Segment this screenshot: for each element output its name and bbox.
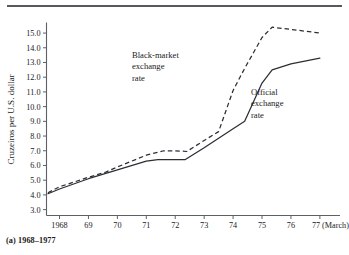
y-tick-label: 9.0	[30, 117, 40, 126]
y-axis-tick-labels: 3.04.05.06.07.08.09.010.011.012.013.014.…	[26, 29, 40, 215]
x-tick-label: 71	[142, 221, 150, 230]
y-axis-title: Cruzeiros per U.S. dollar	[6, 74, 16, 164]
y-tick-label: 8.0	[30, 132, 40, 141]
y-tick-label: 12.0	[26, 73, 40, 82]
chart-series	[48, 27, 320, 194]
y-tick-label: 15.0	[26, 29, 40, 38]
y-tick-label: 13.0	[26, 58, 40, 67]
official-label: Officialexchangerate	[251, 87, 284, 120]
black-market-label: Black-marketexchangerate	[132, 50, 179, 83]
x-tick-label: 73	[200, 221, 208, 230]
x-tick-label: 1968	[51, 221, 67, 230]
x-tick-label: 69	[84, 221, 92, 230]
y-tick-label: 10.0	[26, 103, 40, 112]
series-official	[48, 58, 320, 194]
y-tick-label: 3.0	[30, 206, 40, 215]
figure-container: 3.04.05.06.07.08.09.010.011.012.013.014.…	[0, 0, 349, 255]
x-tick-label: 72	[171, 221, 179, 230]
y-tick-label: 4.0	[30, 191, 40, 200]
x-tick-label: 75	[258, 221, 266, 230]
y-tick-label: 5.0	[30, 176, 40, 185]
x-tick-label: 77 (March)	[312, 221, 349, 230]
y-tick-label: 7.0	[30, 147, 40, 156]
y-tick-label: 11.0	[26, 88, 40, 97]
series-black-market	[48, 27, 320, 193]
chart-axes	[47, 23, 341, 216]
x-axis-tick-labels: 1968697071727374757677 (March)	[51, 221, 349, 230]
x-tick-label: 76	[287, 221, 295, 230]
x-tick-label: 74	[229, 221, 237, 230]
line-chart: 3.04.05.06.07.08.09.010.011.012.013.014.…	[0, 0, 349, 255]
y-axis-title-text: Cruzeiros per U.S. dollar	[6, 74, 16, 164]
x-tick-label: 70	[113, 221, 121, 230]
y-tick-label: 14.0	[26, 44, 40, 53]
figure-caption: (a) 1968–1977	[6, 236, 56, 245]
y-tick-label: 6.0	[30, 161, 40, 170]
